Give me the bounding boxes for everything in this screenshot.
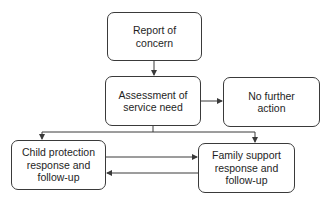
node-label-line: No further xyxy=(248,90,295,103)
node-label-line: Child protection xyxy=(22,146,95,159)
node-assessment-of-service-need: Assessment of service need xyxy=(105,76,201,126)
node-label-line: response and xyxy=(212,162,281,175)
node-label-line: service need xyxy=(119,101,188,114)
node-family-support-response: Family support response and follow-up xyxy=(198,143,295,193)
node-label-line: concern xyxy=(133,37,176,50)
node-label-line: Assessment of xyxy=(119,89,188,102)
edge-assess-to-family xyxy=(153,132,255,142)
node-label-line: follow-up xyxy=(22,171,95,184)
node-label-line: Report of xyxy=(133,24,176,37)
flowchart-canvas: Report of concern Assessment of service … xyxy=(0,0,327,202)
node-child-protection-response: Child protection response and follow-up xyxy=(11,140,106,190)
node-no-further-action: No further action xyxy=(223,77,320,127)
edge-assess-to-child xyxy=(42,132,153,139)
node-report-of-concern: Report of concern xyxy=(107,12,202,61)
node-label-line: response and xyxy=(22,159,95,172)
node-label-line: Family support xyxy=(212,149,281,162)
node-label-line: action xyxy=(248,102,295,115)
node-label-line: follow-up xyxy=(212,174,281,187)
